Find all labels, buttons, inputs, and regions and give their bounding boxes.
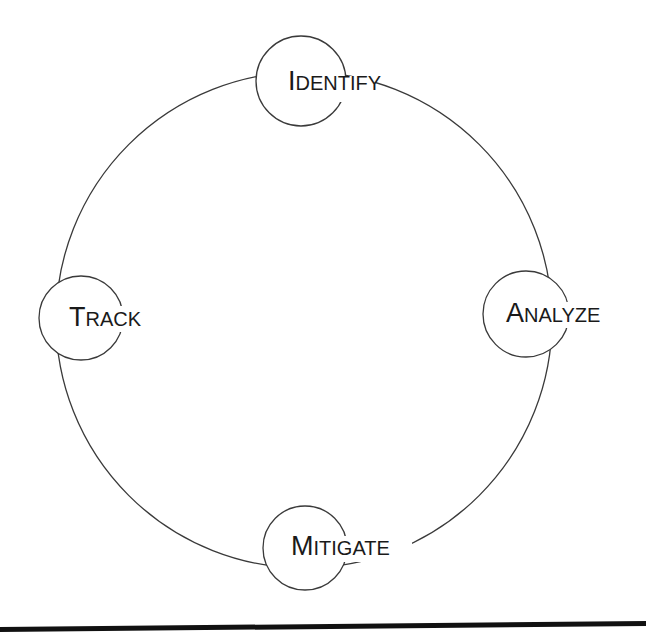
- node-label-analyze-cap: A: [506, 298, 524, 328]
- node-label-mitigate-cap: M: [291, 531, 314, 561]
- node-label-mitigate-rest: ITIGATE: [314, 537, 390, 559]
- node-label-analyze: ANALYZE: [506, 300, 600, 327]
- node-label-track-rest: RACK: [86, 308, 142, 330]
- node-label-identify-rest: DENTIFY: [296, 72, 382, 94]
- node-label-analyze-rest: NALYZE: [524, 304, 600, 326]
- node-label-track-cap: T: [69, 302, 86, 332]
- bottom-rule: [0, 621, 646, 632]
- node-label-identify-cap: I: [288, 66, 296, 96]
- node-label-mitigate: MITIGATE: [291, 533, 390, 560]
- node-label-identify: IDENTIFY: [288, 68, 381, 95]
- node-label-track: TRACK: [69, 304, 141, 331]
